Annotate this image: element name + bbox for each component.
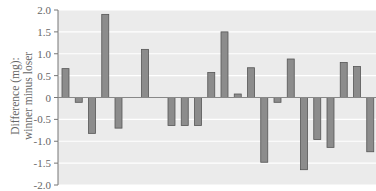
y-tick-label: -0.5 (34, 113, 52, 125)
bar (208, 73, 215, 98)
y-tick-label: -2.0 (34, 179, 52, 191)
bar (314, 98, 321, 140)
bar (287, 59, 294, 98)
bar (248, 68, 255, 98)
bar (354, 66, 361, 97)
y-tick-label: 1.0 (37, 48, 51, 60)
bar (181, 98, 188, 126)
bar (301, 98, 308, 170)
y-tick-label: -1.5 (34, 157, 52, 169)
plot-area: 2.01.51.00.50-0.5-1.0-1.5-2.0 (0, 0, 376, 191)
y-tick-label: 1.5 (37, 26, 51, 38)
bar (75, 98, 82, 103)
bar (142, 49, 149, 97)
bar (367, 98, 374, 152)
bar (195, 98, 202, 126)
bar (221, 32, 228, 98)
bar (261, 98, 268, 163)
bar (115, 98, 122, 129)
bar (168, 98, 175, 126)
bar (89, 98, 96, 134)
y-tick-label: 0 (46, 92, 52, 104)
bar (62, 69, 69, 98)
y-tick-label: 0.5 (37, 70, 51, 82)
y-tick-label: -1.0 (34, 135, 52, 147)
bar (340, 63, 347, 98)
bar (274, 98, 281, 103)
bar-chart: Difference (mg): winner minus loser 2.01… (0, 0, 376, 191)
bar (102, 14, 109, 97)
y-tick-label: 2.0 (37, 4, 51, 16)
bar (327, 98, 334, 148)
